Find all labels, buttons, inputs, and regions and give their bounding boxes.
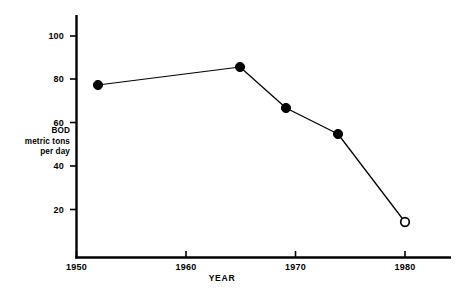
data-point-marker-filled xyxy=(235,62,244,71)
y-axis-title: BOD metric tons per day xyxy=(8,126,70,158)
bod-line-path xyxy=(98,67,405,222)
x-axis-tick-label-1980: 1980 xyxy=(395,262,416,272)
x-axis-tick-label-1950: 1950 xyxy=(66,262,87,272)
axes-group xyxy=(75,15,451,259)
x-axis-tick-label-1960: 1960 xyxy=(176,262,197,272)
x-axis-title: YEAR xyxy=(162,273,282,283)
y-axis-tick-label-40: 40 xyxy=(36,161,64,171)
y-axis-title-line-3: per day xyxy=(8,147,70,158)
y-axis-tick-label-80: 80 xyxy=(36,74,64,84)
data-point-marker-filled xyxy=(333,129,342,138)
data-point-marker-filled xyxy=(93,80,102,89)
y-axis-title-line-2: metric tons xyxy=(8,137,70,148)
data-point-marker-filled xyxy=(281,103,290,112)
data-series-line xyxy=(98,67,405,222)
data-point-marker-open xyxy=(401,218,410,227)
y-axis-tick-label-20: 20 xyxy=(36,205,64,215)
data-point-markers xyxy=(93,62,409,226)
bod-year-line-chart: 100 80 60 40 20 1950 1960 1970 1980 BOD … xyxy=(0,0,464,294)
x-axis-tick-label-1970: 1970 xyxy=(285,262,306,272)
y-axis-tick-label-100: 100 xyxy=(36,31,64,41)
y-axis-title-line-1: BOD xyxy=(8,126,70,137)
